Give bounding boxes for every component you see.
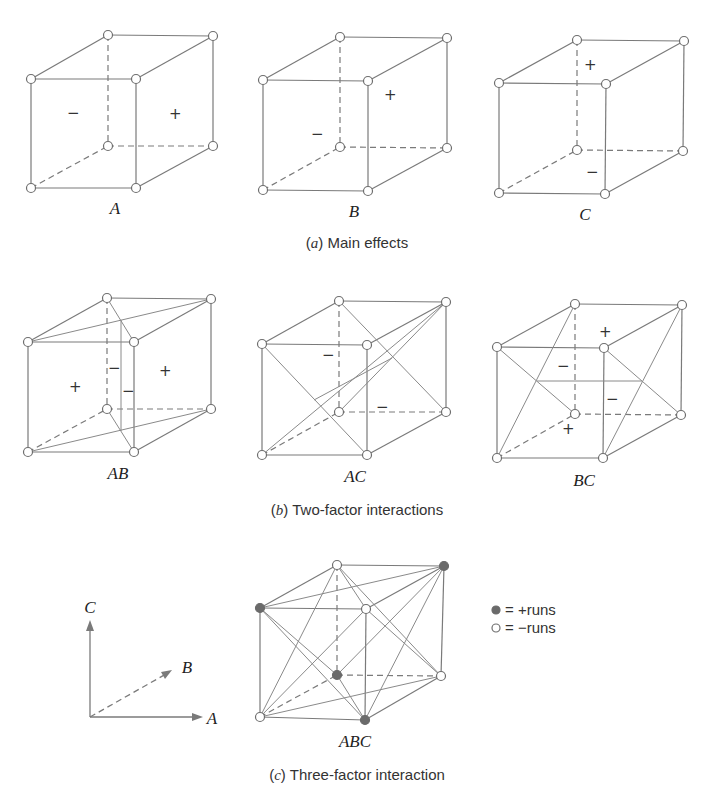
caption-a: (a) Main effects [306, 234, 408, 251]
plus-sign: + [599, 323, 612, 341]
open-circle-icon [492, 624, 500, 632]
cube-label-AB: AB [107, 464, 129, 483]
minus-sign: − [557, 357, 570, 375]
axis-label-B: B [182, 658, 193, 677]
cube-label-BC: BC [573, 471, 595, 490]
cube-label-C: C [579, 205, 591, 224]
minus-sign: − [586, 163, 599, 181]
caption-c: (c) Three-factor interaction [269, 766, 445, 783]
minus-sign: − [67, 104, 80, 122]
plus-sign: + [159, 362, 172, 380]
cube-BC: + − − + BC [493, 300, 687, 491]
arrow-up-icon [86, 620, 94, 631]
axis-label-A: A [206, 709, 218, 728]
minus-sign: − [122, 382, 135, 400]
legend: = +runs = −runs [492, 601, 556, 636]
minus-sign: − [108, 359, 121, 377]
cube-A: − + A [27, 31, 218, 219]
cube-ABC: ABC [256, 561, 449, 752]
factorial-design-figure: − + A − + B [0, 0, 714, 801]
minus-sign: − [311, 125, 324, 143]
plus-sign: + [584, 56, 597, 74]
minus-sign: − [322, 346, 335, 364]
cube-label-ABC: ABC [338, 732, 372, 751]
cube-AB: + − − + AB [24, 294, 216, 484]
legend-plus-runs: = +runs [505, 601, 556, 618]
arrow-diagonal-icon [161, 670, 172, 679]
cube-label-AC: AC [343, 467, 366, 486]
cube-C: + − C [495, 36, 689, 225]
cube-label-A: A [109, 199, 121, 218]
filled-circle-icon [492, 606, 500, 614]
caption-b: (b) Two-factor interactions [271, 501, 443, 518]
plus-sign: + [562, 420, 575, 438]
arrow-right-icon [192, 713, 203, 721]
minus-sign: − [376, 398, 389, 416]
cube-label-B: B [349, 202, 360, 221]
plus-sign: + [384, 86, 397, 104]
axes-indicator: C B A [84, 598, 217, 728]
cube-B: − + B [259, 33, 452, 222]
plus-sign: + [169, 105, 182, 123]
axis-label-C: C [84, 598, 96, 617]
minus-sign: − [606, 390, 619, 408]
plus-sign: + [69, 378, 82, 396]
legend-minus-runs: = −runs [505, 619, 556, 636]
cube-AC: − − AC [258, 297, 451, 487]
